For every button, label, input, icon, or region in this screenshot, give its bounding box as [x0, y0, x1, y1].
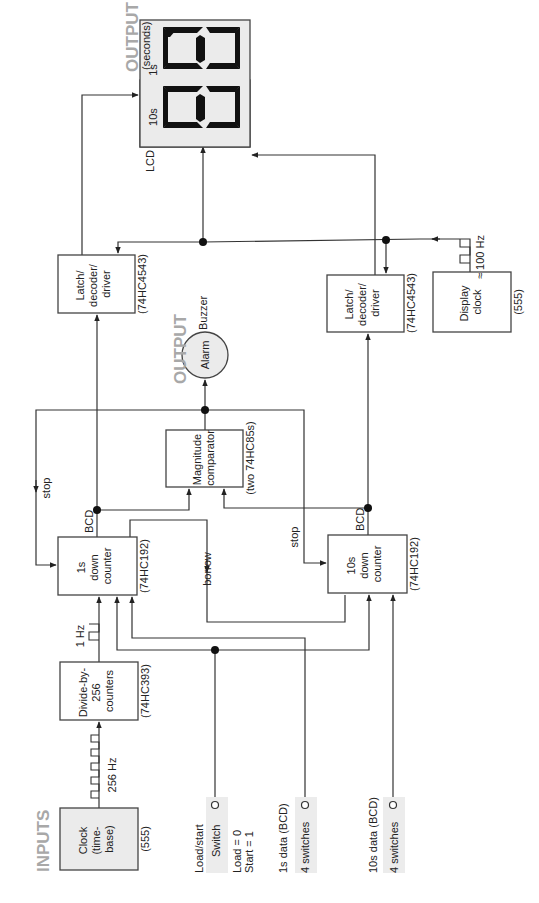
- load-start-input[interactable]: Load/start Switch Load = 0 Start = 1: [193, 797, 255, 873]
- timer-block-diagram: Clock (time- base) (555) Divide-by- 256 …: [0, 0, 539, 903]
- comparator-part-number: (two 74HC85s): [244, 421, 256, 494]
- wire-latch-tens-to-lcd: [252, 155, 375, 275]
- comparator-block: Magnitude comparator (two 74HC85s): [166, 421, 256, 494]
- borrow-label: borrow: [201, 552, 213, 586]
- alarm-block: Alarm Buzzer OUTPUT: [171, 295, 228, 384]
- junction-dot: [211, 646, 219, 654]
- junction-dot: [199, 238, 207, 246]
- ones-counter-block: 1s down counter (74HC192): [58, 537, 150, 595]
- alarm-output-heading: OUTPUT: [171, 314, 190, 385]
- lcd-tens-label: 10s: [147, 108, 159, 126]
- clock-part-number: (555): [139, 826, 151, 852]
- clock-block: Clock (time- base) (555): [60, 808, 151, 870]
- buzzer-label: Buzzer: [197, 295, 209, 330]
- svg-text:Magnitude comparator: Magnitude comparator: [191, 430, 216, 486]
- load-start-switch-label: Switch: [210, 825, 222, 857]
- load-note: Load = 0: [231, 830, 243, 873]
- ones-stop-label: stop: [40, 478, 52, 499]
- lcd-display: LCD 1s 10s OUTPUT (seconds): [123, 2, 250, 173]
- lcd-label: LCD: [144, 150, 156, 172]
- clock-frequency-label: 256 Hz: [106, 758, 118, 793]
- ones-counter-part-number: (74HC192): [138, 539, 150, 593]
- wire-latch-ones-to-lcd: [82, 95, 138, 255]
- switch-terminal-icon[interactable]: [212, 802, 219, 809]
- pulse-100hz-waveform-icon: [460, 239, 470, 263]
- tens-bcd-label: BCD: [354, 508, 366, 531]
- inputs-heading: INPUTS: [34, 810, 53, 872]
- display-output-sub: (seconds): [140, 22, 152, 70]
- ones-bcd-label: BCD: [83, 510, 95, 533]
- ones-data-input[interactable]: 1s data (BCD) 4 switches: [277, 797, 317, 873]
- switch-terminal-icon[interactable]: [302, 802, 309, 809]
- latch-ones-block: Latch/ decoder/ driver (74HC4543): [58, 254, 148, 314]
- junction-dot: [382, 236, 390, 244]
- tens-data-switches-label: 4 switches: [388, 821, 400, 873]
- wire-clock-to-latch-ones: [118, 242, 203, 253]
- junction-dot: [201, 406, 209, 414]
- latch-tens-block: Latch/ decoder/ driver (74HC4543): [327, 273, 417, 333]
- load-start-title: Load/start: [193, 824, 205, 873]
- svg-text:Clock (time- base): Clock (time- base): [77, 823, 115, 854]
- alarm-label: Alarm: [199, 341, 211, 370]
- start-note: Start = 1: [243, 831, 255, 873]
- wire-borrow: [130, 520, 345, 622]
- ones-data-title: 1s data (BCD): [277, 803, 289, 873]
- clock-256hz-waveform-icon: [91, 735, 99, 798]
- tens-counter-part-number: (74HC192): [408, 537, 420, 591]
- tens-stop-label: stop: [288, 527, 300, 548]
- tens-counter-block: 10s down counter (74HC192): [328, 535, 420, 593]
- display-frequency-label: ≈ 100 Hz: [474, 235, 486, 279]
- latch-ones-part-number: (74HC4543): [136, 254, 148, 314]
- divider-part-number: (74HC393): [139, 664, 151, 718]
- ones-data-switches-label: 4 switches: [299, 821, 311, 873]
- wire-ones-data: [132, 597, 305, 805]
- wire-ones-bcd-to-comparator: [97, 489, 189, 510]
- tens-data-title: 10s data (BCD): [367, 797, 379, 873]
- switch-terminal-icon[interactable]: [390, 802, 397, 809]
- divider-block: Divide-by- 256 counters (74HC393): [60, 662, 151, 720]
- display-clock-part-number: (555): [512, 289, 524, 315]
- pulse-1hz-waveform-icon: [89, 624, 99, 640]
- latch-tens-part-number: (74HC4543): [405, 273, 417, 333]
- one-hz-label: 1 Hz: [74, 625, 86, 648]
- tens-data-input[interactable]: 10s data (BCD) 4 switches: [367, 797, 405, 873]
- display-clock-block: Display clock (555): [433, 272, 524, 332]
